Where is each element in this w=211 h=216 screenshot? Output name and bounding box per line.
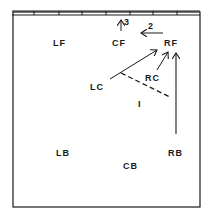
position-lc: LC [90,82,104,92]
arrow-2-label: 2 [148,21,154,31]
arrow-3-label: 3 [124,17,130,27]
position-rf: RF [164,38,178,48]
position-cb: CB [123,161,138,171]
position-rc: RC [145,73,160,83]
court-diagram: 3 2 LF CF RF LC RC LB CB RB I [0,0,211,216]
arrow-2: 2 [141,21,163,33]
position-lb: LB [56,148,70,158]
arrow-3: 3 [121,17,130,31]
position-cf: CF [112,38,126,48]
arrow-rc-to-rf [157,52,168,70]
position-rb: RB [168,148,183,158]
marker-1: I [138,99,142,109]
position-lf: LF [53,38,66,48]
